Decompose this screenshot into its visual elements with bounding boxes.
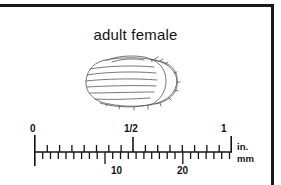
scale-bar: 0 1/2 1 10 20 in. mm — [26, 122, 266, 180]
figure-caption: adult female — [0, 26, 271, 43]
scale-label-inch-half: 1/2 — [124, 124, 138, 134]
scale-label-mm-20: 20 — [177, 166, 188, 176]
frame-right-border — [271, 4, 274, 185]
scale-label-mm-10: 10 — [111, 166, 122, 176]
figure-panel: adult female — [0, 0, 281, 185]
scale-label-inch-0: 0 — [30, 124, 36, 134]
scale-unit-millimeters: mm — [237, 154, 254, 164]
scale-unit-inches: in. — [237, 142, 248, 152]
tick-illustration — [82, 50, 200, 112]
scale-label-inch-1: 1 — [221, 124, 227, 134]
frame-top-border — [0, 4, 274, 7]
